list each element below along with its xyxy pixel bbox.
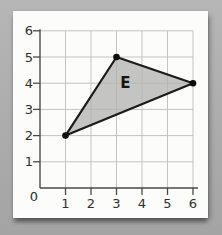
vertex-dot — [62, 132, 69, 139]
triangle-shape — [66, 57, 194, 136]
y-tick-label: 3 — [25, 102, 33, 117]
x-tick-label: 1 — [61, 196, 69, 211]
x-tick-label: 4 — [138, 196, 146, 211]
vertex-dot — [113, 54, 120, 61]
coordinate-grid-figure: 1234561234560E — [13, 11, 208, 218]
shape-label: E — [120, 74, 130, 92]
y-tick-label: 2 — [25, 128, 33, 143]
vertex-dot — [190, 80, 197, 87]
y-tick-label: 6 — [25, 23, 33, 38]
x-tick-label: 2 — [87, 196, 95, 211]
y-tick-label: 1 — [25, 154, 33, 169]
figure-card: 1234561234560E — [13, 11, 208, 218]
x-tick-label: 3 — [112, 196, 120, 211]
x-tick-label: 6 — [189, 196, 197, 211]
y-tick-label: 4 — [25, 76, 33, 91]
x-tick-label: 5 — [163, 196, 171, 211]
origin-label: 0 — [30, 189, 38, 204]
y-tick-label: 5 — [25, 50, 33, 65]
